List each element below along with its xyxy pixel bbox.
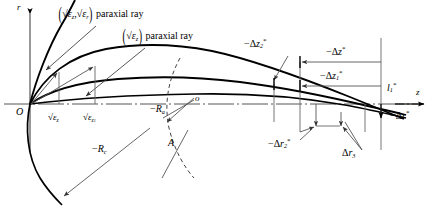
paraxial-ray-text: paraxial ray — [96, 8, 143, 19]
subscript-3: 3 — [352, 152, 355, 159]
dim-delta-z2-leader — [274, 56, 288, 80]
asterisk-mark: * — [287, 137, 291, 145]
diagram-canvas — [0, 0, 437, 210]
paraxial-ray-text: paraxial ray — [146, 30, 193, 41]
asterisk-mark: * — [263, 37, 267, 45]
point-o-label: o — [195, 94, 200, 103]
delta-z1-label: −Δz1* — [320, 70, 343, 81]
arrow-Ra-2 — [163, 100, 194, 118]
origin-label: O — [16, 107, 23, 117]
subscript-z1: z1 — [92, 117, 96, 123]
ray-curves — [27, 0, 406, 205]
delta-z-label: −Δz* — [326, 46, 345, 57]
ray-label-epsz-epsr: (√εz,√εr)paraxial ray — [58, 9, 143, 20]
paren-open-icon: ( — [59, 4, 62, 23]
paren-close-icon: ) — [139, 26, 142, 45]
axis-mark-epsz1: √εz1 — [83, 113, 96, 123]
delta-z2-label: −Δz2* — [244, 38, 267, 49]
asterisk-mark: * — [342, 45, 346, 53]
axis-mark-epsz: √εz — [48, 113, 59, 123]
subscript-c: c — [104, 148, 107, 155]
paren-open-icon: ( — [123, 26, 126, 45]
delta-r-label: −Δr* — [390, 110, 409, 121]
paren-close-icon: ) — [89, 4, 92, 23]
image-distance-label: l1* — [387, 82, 396, 93]
arrow-Ra-1 — [167, 98, 194, 122]
asterisk-mark: * — [406, 109, 410, 117]
leader-to-A — [162, 130, 188, 178]
delta-r2-label: −Δr2* — [268, 138, 291, 149]
subscript-z: z — [57, 117, 59, 123]
delta-r3-label: Δr3 — [342, 148, 355, 159]
radical-epsz: √εz — [62, 9, 74, 20]
leader-delta-r2-long — [300, 129, 312, 140]
Ra-leader — [162, 98, 194, 178]
ray-diagram-figure: r z O (√εz,√εr)paraxial ray (√εz)paraxia… — [0, 0, 437, 210]
asterisk-mark: * — [339, 69, 343, 77]
arrow-Rc — [64, 128, 150, 196]
radius-c-label: −Rc — [92, 144, 107, 155]
leader-delta-r3-b — [345, 122, 362, 150]
ray-label-epsz: (√εz)paraxial ray — [122, 31, 193, 42]
point-A-label: A — [168, 138, 174, 148]
subscript-1: 1 — [94, 118, 96, 123]
leader-to-epsz-epsr — [46, 26, 96, 70]
radius-a-label: −Ra — [150, 104, 165, 115]
asterisk-mark: * — [393, 81, 397, 89]
z-axis-label: z — [416, 88, 420, 97]
radical-epsr: √εr — [77, 9, 89, 20]
Rc-leader — [64, 128, 150, 196]
r-axis-label: r — [17, 3, 21, 12]
radical-epsz: √εz — [126, 31, 138, 42]
ray-epsz-epsr — [30, 45, 404, 119]
subscript-a: a — [162, 108, 165, 115]
